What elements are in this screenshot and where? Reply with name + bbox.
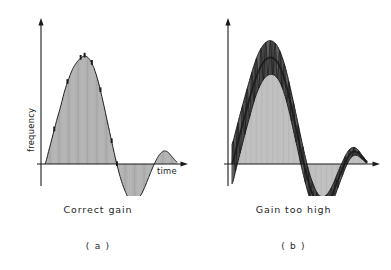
- panel-b-caption: Gain too high: [196, 204, 391, 215]
- panel-a-caption: Correct gain: [0, 204, 196, 215]
- panel-b: frequency time Gain too high ( b ): [196, 0, 391, 270]
- panel-b-index-label: ( b ): [196, 241, 391, 251]
- panel-a-index-label: ( a ): [0, 241, 196, 251]
- x-axis-label-time-a: time: [157, 166, 177, 176]
- y-axis-label-frequency-a: frequency: [26, 108, 36, 152]
- figure-servo-gain-response: frequency time Correct gain ( a ) freque…: [0, 0, 391, 270]
- plot-gain-too-high: [196, 0, 391, 196]
- panel-a: frequency time Correct gain ( a ): [0, 0, 196, 270]
